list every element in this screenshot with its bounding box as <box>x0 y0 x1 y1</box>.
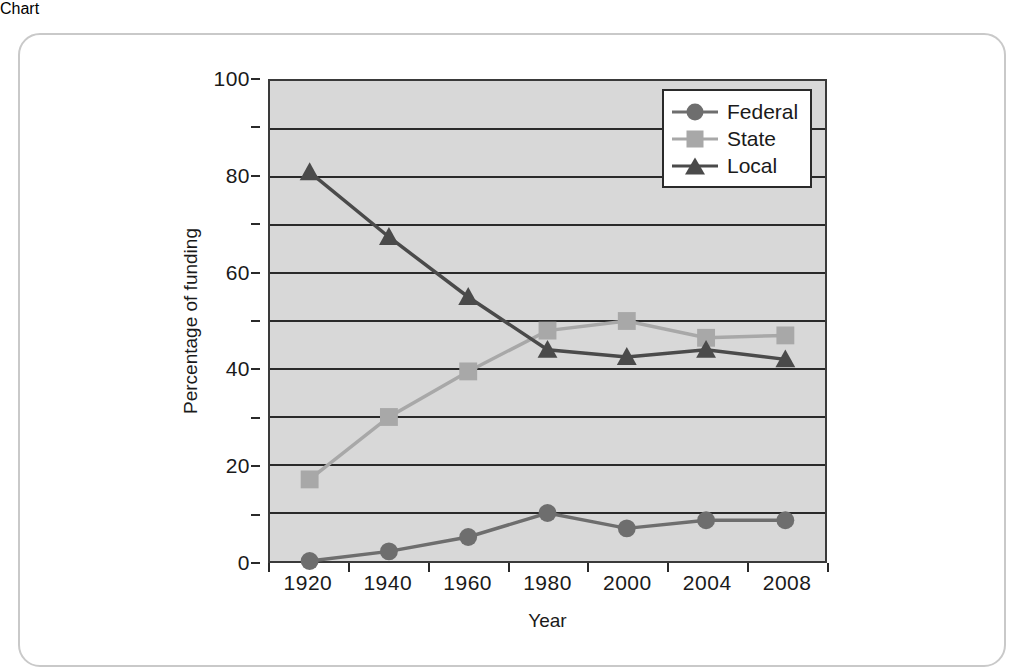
y-tick-label: 40 <box>226 357 250 381</box>
data-point-federal-1920 <box>301 552 319 570</box>
legend-label: Local <box>727 154 777 178</box>
data-point-federal-2004 <box>697 511 715 529</box>
y-tick-mark <box>251 417 260 419</box>
legend-item-state[interactable]: State <box>672 125 798 152</box>
data-point-federal-1940 <box>380 542 398 560</box>
x-axis-labels: 1920194019601980200020042008 <box>268 571 827 605</box>
data-point-federal-1980 <box>539 504 557 522</box>
legend-marker-square-icon <box>687 130 704 147</box>
legend-label: Federal <box>727 100 798 124</box>
x-tick-label: 2000 <box>603 571 652 595</box>
data-point-state-1980 <box>539 322 557 340</box>
y-tick-mark <box>251 320 260 322</box>
legend-item-federal[interactable]: Federal <box>672 98 798 125</box>
y-tick-label: 80 <box>226 164 250 188</box>
y-axis-labels: 020406080100 <box>198 79 260 563</box>
y-tick-mark <box>251 126 260 128</box>
data-point-state-1960 <box>459 362 477 380</box>
x-axis-title: Year <box>268 610 827 632</box>
y-tick-mark <box>251 368 260 370</box>
chart-legend: FederalStateLocal <box>662 89 812 188</box>
legend-swatch-local <box>672 155 718 177</box>
data-point-federal-1960 <box>459 528 477 546</box>
y-tick-mark <box>251 223 260 225</box>
legend-label: State <box>727 127 776 151</box>
x-tick-mark <box>827 563 829 572</box>
data-point-local-1920 <box>300 162 320 180</box>
y-tick-mark <box>251 78 260 80</box>
y-tick-label: 100 <box>213 67 250 91</box>
data-point-state-2008 <box>776 326 794 344</box>
x-tick-label: 2008 <box>763 571 812 595</box>
data-point-federal-2000 <box>618 519 636 537</box>
x-tick-label: 1960 <box>443 571 492 595</box>
chart-figure: Percentage of funding 020406080100 19201… <box>0 18 1023 671</box>
y-tick-label: 0 <box>238 551 250 575</box>
data-point-state-1920 <box>301 470 319 488</box>
legend-marker-triangle-icon <box>685 157 705 174</box>
x-tick-label: 1920 <box>284 571 333 595</box>
legend-swatch-federal <box>672 101 718 123</box>
y-tick-label: 20 <box>226 454 250 478</box>
y-tick-mark <box>251 272 260 274</box>
data-point-state-1940 <box>380 408 398 426</box>
y-tick-mark <box>251 562 260 564</box>
x-tick-label: 2004 <box>683 571 732 595</box>
y-tick-mark <box>251 514 260 516</box>
data-point-federal-2008 <box>776 511 794 529</box>
legend-marker-circle-icon <box>687 103 704 120</box>
y-tick-mark <box>251 175 260 177</box>
data-point-state-2000 <box>618 312 636 330</box>
x-tick-label: 1980 <box>523 571 572 595</box>
x-tick-label: 1940 <box>363 571 412 595</box>
y-tick-label: 60 <box>226 261 250 285</box>
legend-item-local[interactable]: Local <box>672 152 798 179</box>
y-tick-mark <box>251 465 260 467</box>
legend-swatch-state <box>672 128 718 150</box>
